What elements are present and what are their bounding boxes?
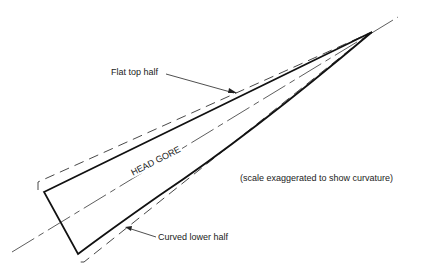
straight-reference-outline	[38, 32, 372, 262]
flat-top-arrowhead	[228, 88, 237, 93]
flat-top-half-label: Flat top half	[111, 68, 158, 77]
curved-lower-leader	[128, 228, 156, 237]
centerline	[12, 17, 398, 252]
head-gore-diagram: HEAD GORE Flat top half Curved lower hal…	[0, 0, 421, 275]
gore-outline	[44, 32, 372, 254]
flat-top-leader	[166, 74, 234, 93]
scale-note-label: (scale exaggerated to show curvature)	[240, 174, 393, 183]
curved-lower-half-label: Curved lower half	[158, 233, 228, 242]
